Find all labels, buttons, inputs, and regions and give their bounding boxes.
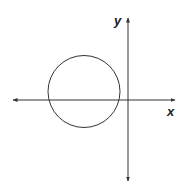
x-axis-label: x (167, 105, 174, 118)
diagram-graphic (0, 0, 183, 183)
coordinate-diagram: y x (0, 0, 183, 183)
y-axis-label: y (114, 14, 121, 27)
circle-shape (48, 56, 120, 128)
